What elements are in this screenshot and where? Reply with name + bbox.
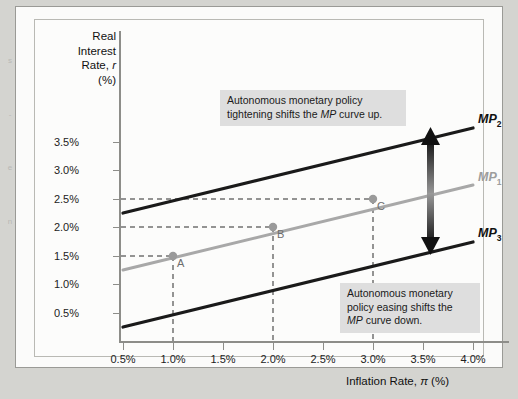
callout-easing-line-3: MP curve down.	[347, 314, 473, 328]
curve-label-mp3: MP3	[478, 226, 501, 243]
callout-easing: Autonomous monetary policy easing shifts…	[340, 283, 480, 333]
callout-easing-line-1: Autonomous monetary	[347, 287, 473, 301]
x-axis-title: Inflation Rate, π (%)	[346, 375, 449, 387]
bleed-glyph: -	[9, 110, 12, 119]
point-C-marker	[369, 195, 377, 203]
bleed-glyph: e	[8, 163, 12, 172]
callout-easing-line-2: policy easing shifts the	[347, 301, 473, 315]
curve-mp2	[123, 128, 473, 213]
figure-root: s - e n Real Interest Rate, r (%) 0.5% 1…	[0, 0, 518, 399]
point-A-marker	[169, 252, 177, 260]
point-label-B: B	[277, 228, 284, 240]
point-label-C: C	[377, 200, 385, 212]
curve-label-mp1: MP1	[478, 170, 501, 187]
callout-tightening: Autonomous monetary policy tightening sh…	[220, 90, 406, 126]
figure-panel: Real Interest Rate, r (%) 0.5% 1.0% 1.5%…	[15, 6, 503, 368]
bleed-glyph: s	[8, 56, 12, 65]
callout-tightening-line-2: tightening shifts the MP curve up.	[227, 108, 399, 122]
point-label-A: A	[177, 257, 184, 269]
callout-tightening-line-1: Autonomous monetary policy	[227, 94, 399, 108]
point-B-marker	[269, 223, 277, 231]
curve-label-mp2: MP2	[478, 112, 501, 129]
shift-arrow-down	[421, 193, 440, 255]
bleed-glyph: n	[8, 217, 12, 226]
